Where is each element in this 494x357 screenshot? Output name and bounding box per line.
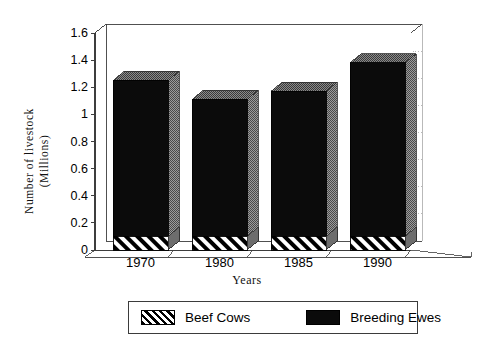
x-axis-title: Years — [197, 273, 297, 288]
chart-figure: Number of livestock (Millions) 00.20.40.… — [0, 0, 494, 357]
legend-label-breeding-ewes: Breeding Ewes — [350, 310, 441, 325]
bar-1970 — [113, 71, 179, 250]
legend-item-beef-cows: Beef Cows — [141, 310, 250, 325]
bar-1980 — [192, 90, 258, 250]
chart-legend: Beef Cows Breeding Ewes — [128, 301, 418, 334]
bar-1985 — [271, 82, 337, 250]
x-tick-1980: 1980 — [180, 255, 260, 270]
legend-item-breeding-ewes: Breeding Ewes — [306, 310, 441, 325]
hatch-swatch-icon — [141, 310, 175, 325]
x-tick-1990: 1990 — [338, 255, 418, 270]
x-tick-1985: 1985 — [259, 255, 339, 270]
solid-swatch-icon — [306, 310, 340, 325]
legend-label-beef-cows: Beef Cows — [185, 310, 250, 325]
x-tick-1970: 1970 — [101, 255, 181, 270]
bar-1990 — [350, 54, 416, 250]
